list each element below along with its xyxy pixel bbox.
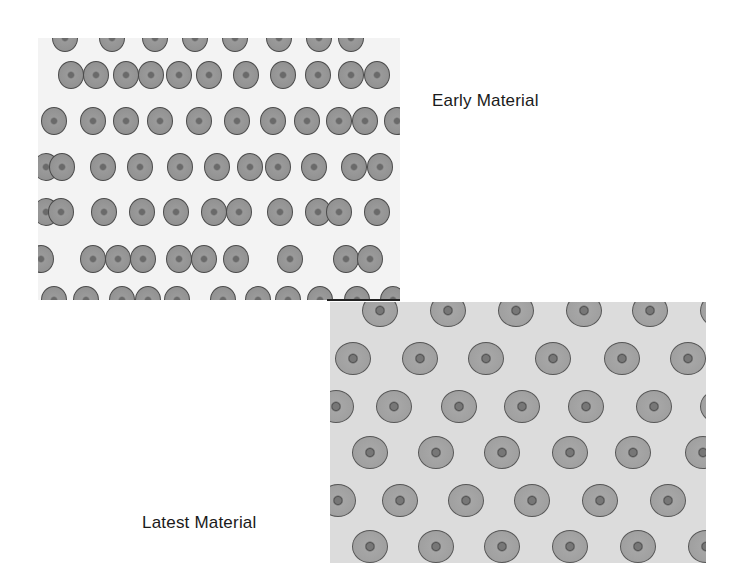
disc-particle bbox=[275, 286, 301, 300]
disc-particle bbox=[182, 38, 208, 52]
disc-particle bbox=[376, 390, 412, 423]
disc-particle bbox=[306, 38, 332, 52]
disc-particle bbox=[226, 198, 252, 226]
disc-particle bbox=[196, 61, 222, 89]
disc-particle bbox=[113, 61, 139, 89]
disc-particle bbox=[127, 153, 153, 181]
disc-particle bbox=[267, 198, 293, 226]
disc-particle bbox=[326, 198, 352, 226]
disc-particle bbox=[632, 302, 668, 327]
disc-particle bbox=[330, 484, 356, 517]
disc-particle bbox=[166, 245, 192, 273]
disc-particle bbox=[237, 153, 263, 181]
disc-particle bbox=[233, 61, 259, 89]
disc-particle bbox=[191, 245, 217, 273]
disc-particle bbox=[338, 61, 364, 89]
disc-particle bbox=[352, 107, 378, 135]
disc-particle bbox=[352, 530, 388, 563]
disc-particle bbox=[330, 390, 354, 423]
disc-particle bbox=[260, 107, 286, 135]
disc-particle bbox=[484, 530, 520, 563]
disc-particle bbox=[418, 436, 454, 469]
disc-particle bbox=[105, 245, 131, 273]
disc-particle bbox=[688, 530, 706, 563]
disc-particle bbox=[186, 107, 212, 135]
disc-particle bbox=[650, 484, 686, 517]
disc-particle bbox=[135, 286, 161, 300]
disc-particle bbox=[91, 198, 117, 226]
disc-particle bbox=[448, 484, 484, 517]
disc-particle bbox=[335, 342, 371, 375]
disc-particle bbox=[685, 436, 706, 469]
disc-particle bbox=[338, 38, 364, 52]
disc-particle bbox=[700, 302, 706, 327]
disc-particle bbox=[504, 390, 540, 423]
early-material-micrograph bbox=[38, 38, 400, 300]
disc-particle bbox=[201, 198, 227, 226]
disc-particle bbox=[357, 245, 383, 273]
disc-particle bbox=[636, 390, 672, 423]
disc-particle bbox=[166, 61, 192, 89]
disc-particle bbox=[164, 286, 190, 300]
disc-particle bbox=[80, 245, 106, 273]
disc-particle bbox=[99, 38, 125, 52]
disc-particle bbox=[568, 390, 604, 423]
disc-particle bbox=[418, 530, 454, 563]
disc-particle bbox=[582, 484, 618, 517]
disc-particle bbox=[344, 286, 370, 300]
disc-particle bbox=[147, 107, 173, 135]
disc-particle bbox=[222, 38, 248, 52]
disc-particle bbox=[277, 245, 303, 273]
disc-particle bbox=[468, 342, 504, 375]
disc-particle bbox=[566, 302, 602, 327]
disc-particle bbox=[382, 484, 418, 517]
disc-particle bbox=[52, 38, 78, 52]
disc-particle bbox=[109, 286, 135, 300]
early-material-label: Early Material bbox=[432, 91, 539, 111]
disc-particle bbox=[362, 302, 398, 327]
disc-particle bbox=[402, 342, 438, 375]
disc-particle bbox=[430, 302, 466, 327]
disc-particle bbox=[245, 286, 271, 300]
disc-particle bbox=[163, 198, 189, 226]
latest-material-micrograph bbox=[330, 302, 706, 563]
disc-particle bbox=[535, 342, 571, 375]
disc-particle bbox=[620, 530, 656, 563]
latest-material-label: Latest Material bbox=[142, 513, 257, 533]
disc-particle bbox=[552, 436, 588, 469]
disc-particle bbox=[73, 286, 99, 300]
disc-particle bbox=[294, 107, 320, 135]
disc-particle bbox=[441, 390, 477, 423]
disc-particle bbox=[367, 153, 393, 181]
disc-particle bbox=[484, 436, 520, 469]
disc-particle bbox=[341, 153, 367, 181]
disc-particle bbox=[380, 286, 400, 300]
disc-particle bbox=[223, 245, 249, 273]
disc-particle bbox=[90, 153, 116, 181]
disc-particle bbox=[301, 153, 327, 181]
disc-particle bbox=[364, 61, 390, 89]
disc-particle bbox=[604, 342, 640, 375]
disc-particle bbox=[49, 153, 75, 181]
disc-particle bbox=[138, 61, 164, 89]
disc-particle bbox=[384, 107, 400, 135]
disc-particle bbox=[700, 390, 706, 423]
disc-particle bbox=[670, 342, 706, 375]
disc-particle bbox=[167, 153, 193, 181]
disc-particle bbox=[83, 61, 109, 89]
disc-particle bbox=[204, 153, 230, 181]
disc-particle bbox=[130, 245, 156, 273]
disc-particle bbox=[224, 107, 250, 135]
disc-particle bbox=[326, 107, 352, 135]
disc-particle bbox=[80, 107, 106, 135]
disc-particle bbox=[142, 38, 168, 52]
disc-particle bbox=[41, 286, 67, 300]
disc-particle bbox=[265, 153, 291, 181]
disc-particle bbox=[498, 302, 534, 327]
disc-particle bbox=[615, 436, 651, 469]
disc-particle bbox=[266, 38, 292, 52]
disc-particle bbox=[552, 530, 588, 563]
disc-particle bbox=[129, 198, 155, 226]
scale-bar bbox=[327, 299, 400, 301]
disc-particle bbox=[307, 286, 333, 300]
